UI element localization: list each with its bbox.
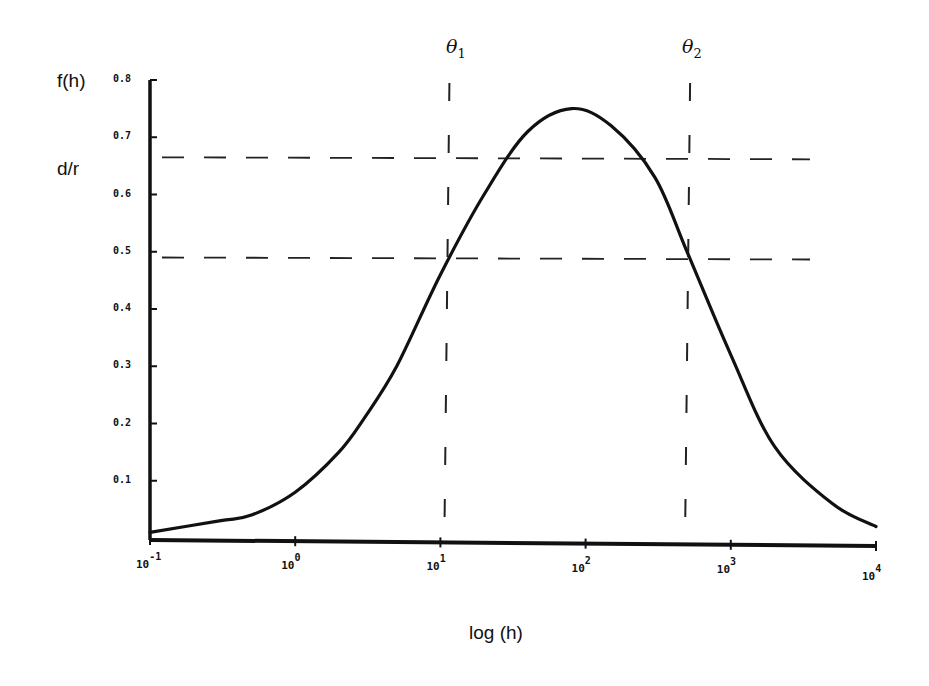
chart-plot-area [0,0,929,686]
horizontal-dashed-line [162,257,810,259]
data-curve [150,109,876,533]
vertical-dashed-line [685,83,690,535]
vertical-dashed-line [444,83,449,535]
horizontal-dashed-line [162,157,810,159]
x-axis-line [150,540,876,546]
